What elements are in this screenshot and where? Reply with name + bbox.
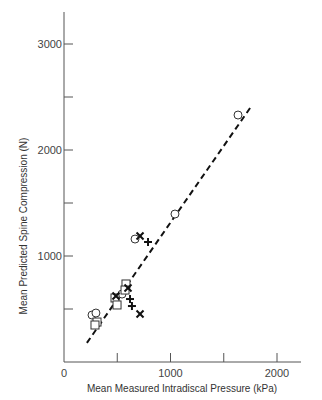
- square-marker: [113, 301, 121, 309]
- y-axis-title: Mean Predicted Spine Compression (N): [18, 138, 29, 315]
- circle-marker: [171, 210, 179, 218]
- y-tick-label: 1000: [38, 250, 62, 262]
- plus-marker: [126, 295, 134, 303]
- x-tick-label: 0: [61, 367, 67, 379]
- y-tick-label: 3000: [38, 38, 62, 50]
- plus-marker: [128, 302, 136, 310]
- scatter-chart: 010002000100020003000 Mean Measured Intr…: [0, 0, 322, 400]
- x-tick-label: 1000: [158, 367, 182, 379]
- square-marker: [91, 321, 99, 329]
- x-axis-title: Mean Measured Intradiscal Pressure (kPa): [87, 383, 277, 394]
- plus-marker: [144, 238, 152, 246]
- circle-marker: [92, 309, 100, 317]
- regression-line: [87, 108, 250, 343]
- x-marker: [137, 310, 144, 317]
- y-tick-label: 2000: [38, 144, 62, 156]
- x-tick-label: 2000: [265, 367, 289, 379]
- circle-marker: [234, 111, 242, 119]
- fit-line: [87, 108, 250, 343]
- data-points: [88, 111, 242, 329]
- axes: 010002000100020003000: [38, 12, 301, 379]
